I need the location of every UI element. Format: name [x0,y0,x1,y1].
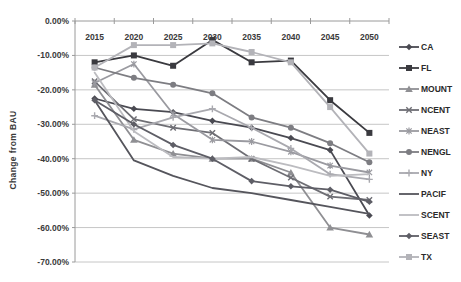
x-tick-label: 2045 [321,32,340,42]
x-tick-label: 2020 [124,32,143,42]
legend-label: SCENT [421,210,450,220]
legend-label: FL [421,63,431,73]
legend-item-NY: NY [399,162,461,183]
legend-item-PACIF: PACIF [399,183,461,204]
legend-label: PACIF [421,189,446,199]
legend-marker-NY [399,168,419,178]
x-tick-label: 2040 [281,32,300,42]
legend-marker-TX [399,252,419,262]
legend-label: CA [421,42,433,52]
legend-marker-MOUNT [399,84,419,94]
legend-label: NEAST [421,126,450,136]
legend-item-NENGL: NENGL [399,141,461,162]
x-tick-labels: 20152020202520302035204020452050 [85,32,379,42]
y-tick-label: -10.00% [37,50,69,60]
series-FL [92,37,373,136]
legend-label: NY [421,168,433,178]
legend-marker-SCENT [399,210,419,220]
legend-label: NENGL [421,147,451,157]
legend-marker-FL [399,63,419,73]
line-chart-figure: Change from BAU 0.00%-10.00%-20.00%-30.0… [0,0,461,282]
legend-item-CA: CA [399,36,461,57]
legend-label: TX [421,252,432,262]
legend-marker-PACIF [399,189,419,199]
x-tick-label: 2050 [360,32,379,42]
y-tick-label: -40.00% [37,154,69,164]
legend-item-NEAST: NEAST [399,120,461,141]
y-tick-label: -60.00% [37,223,69,233]
y-tick-label: 0.00% [45,16,70,26]
y-tick-label: -30.00% [37,119,69,129]
y-tick-label: -70.00% [37,257,69,267]
y-tick-label: -50.00% [37,188,69,198]
legend-marker-NCENT [399,105,419,115]
legend-item-SCENT: SCENT [399,204,461,225]
x-tick-label: 2025 [164,32,183,42]
legend-marker-NENGL [399,147,419,157]
x-tick-label: 2035 [242,32,261,42]
legend-item-NCENT: NCENT [399,99,461,120]
legend-label: NCENT [421,105,450,115]
y-tick-label: -20.00% [37,85,69,95]
y-tick-labels: 0.00%-10.00%-20.00%-30.00%-40.00%-50.00%… [37,16,69,267]
legend-marker-SEAST [399,231,419,241]
legend-item-SEAST: SEAST [399,225,461,246]
legend-label: MOUNT [421,84,452,94]
plot-area: 0.00%-10.00%-20.00%-30.00%-40.00%-50.00%… [0,0,461,282]
legend-item-MOUNT: MOUNT [399,78,461,99]
legend-marker-CA [399,42,419,52]
x-tick-label: 2015 [85,32,104,42]
legend-item-FL: FL [399,57,461,78]
legend: CAFLMOUNTNCENTNEASTNENGLNYPACIFSCENTSEAS… [399,36,461,267]
legend-item-TX: TX [399,246,461,267]
legend-marker-NEAST [399,126,419,136]
legend-label: SEAST [421,231,449,241]
